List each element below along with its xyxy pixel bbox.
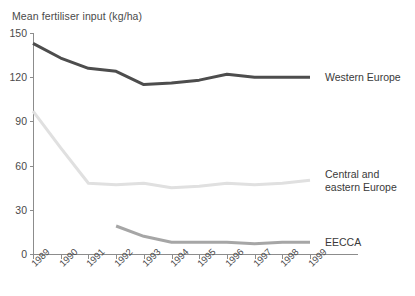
series-line — [33, 43, 310, 84]
chart-container: Mean fertiliser input (kg/ha) 1501209060… — [0, 0, 415, 296]
plot-area — [0, 0, 415, 296]
series-label-western-europe: Western Europe — [325, 71, 401, 84]
series-line — [116, 226, 310, 244]
series-label-eecca: EECCA — [325, 236, 361, 249]
series-line — [33, 111, 310, 188]
series-label-central-and-eastern-europe: Central and eastern Europe — [325, 168, 397, 193]
